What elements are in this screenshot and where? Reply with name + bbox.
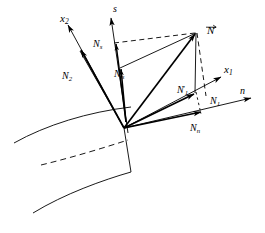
label-x1: x1 <box>224 64 233 77</box>
label-x2: x2 <box>60 13 69 26</box>
label-x1-sub: 1 <box>229 68 233 77</box>
label-N1-prime-sub: 1 <box>185 89 188 96</box>
label-N1-prime: N′1 <box>177 85 188 97</box>
Ns-to-N-dashed-line <box>114 33 195 43</box>
camber-dashed-line <box>41 140 128 165</box>
label-s: s <box>113 4 117 14</box>
label-N1-sub: 1 <box>217 100 220 107</box>
label-Nn: Nn <box>190 123 200 135</box>
blade-profile-curves <box>14 107 131 213</box>
N-to-N1prime-line <box>195 33 196 93</box>
trailing-edge-line <box>124 128 131 172</box>
pressure-surface-curve <box>33 172 131 213</box>
label-s-text: s <box>113 3 117 14</box>
label-Nn-text: N <box>190 122 197 133</box>
vector-diagram-figure: x2 s N Ns N′s N2 x1 N′1 N1 n Nn <box>0 0 265 233</box>
N-to-N1-dashed-line <box>197 33 206 96</box>
diagram-canvas <box>0 0 265 233</box>
label-Ns: Ns <box>93 39 103 51</box>
suction-surface-curve <box>14 107 131 143</box>
s-axis-components <box>116 44 126 122</box>
label-Nn-sub: n <box>197 127 200 134</box>
label-N-vector-text: N <box>207 25 214 36</box>
label-n-text: n <box>240 85 245 96</box>
label-N1: N1 <box>210 96 220 108</box>
Nsprime-to-N-line <box>120 33 196 68</box>
label-N2-sub: 2 <box>69 75 72 82</box>
label-x2-sub: 2 <box>65 17 69 26</box>
label-n: n <box>240 86 245 96</box>
label-Ns-sub: s <box>100 43 103 50</box>
label-Ns-text: N <box>93 38 100 49</box>
label-N2-text: N <box>62 70 69 81</box>
label-Ns-prime-sub: s <box>122 73 125 80</box>
label-N2: N2 <box>62 71 72 83</box>
label-Ns-prime: N′s <box>114 69 124 81</box>
label-N1-text: N <box>210 95 217 106</box>
label-N-vector: N <box>207 25 214 36</box>
vector-arrow-icon <box>206 20 217 26</box>
N1prime-component-vector <box>124 94 194 128</box>
construction-dashed-lines <box>114 33 206 114</box>
